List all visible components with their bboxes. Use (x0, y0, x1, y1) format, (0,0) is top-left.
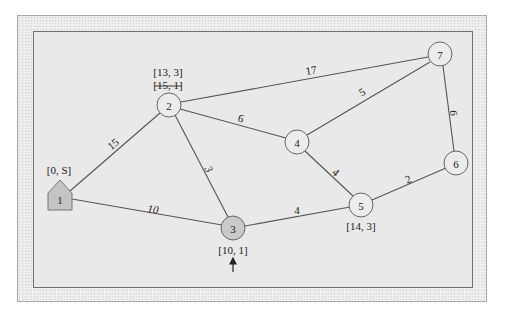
node-3: 3 (221, 216, 245, 240)
node-4-label: 4 (294, 137, 300, 149)
weight-5-6: 2 (403, 172, 413, 185)
weight-2-4: 6 (237, 111, 246, 124)
node-2-old-label: [15, 1] (153, 79, 182, 91)
node-3-label: 3 (230, 223, 236, 235)
node-5: 5 (349, 193, 373, 217)
node-2: 2 (157, 93, 181, 117)
node-1-label-source: [0, S] (47, 164, 71, 176)
node-3-distance-label: [10, 1] (218, 244, 247, 256)
node-5-label: 5 (358, 200, 364, 212)
node-2-label: 2 (166, 100, 172, 112)
node-6: 6 (444, 151, 468, 175)
node-6-label: 6 (453, 158, 459, 170)
node-5-distance-label: [14, 3] (346, 220, 375, 232)
edge-1-2 (70, 113, 160, 191)
edge-2-7 (181, 57, 428, 102)
graph-diagram: 15 10 3 6 17 4 4 5 2 6 1 2 3 (0, 0, 512, 314)
weight-6-7: 6 (448, 110, 460, 116)
figure-canvas: 15 10 3 6 17 4 4 5 2 6 1 2 3 (0, 0, 512, 314)
node-7: 7 (428, 42, 452, 66)
edges (70, 57, 454, 226)
edge-2-3 (175, 115, 228, 217)
up-arrow-icon (230, 258, 236, 272)
node-distance-labels: [13, 3] [15, 1] [0, S] [10, 1] [14, 3] (47, 66, 376, 256)
weight-2-7: 17 (305, 63, 318, 77)
node-4: 4 (285, 130, 309, 154)
weight-3-5: 4 (294, 204, 300, 216)
edge-4-7 (307, 62, 430, 135)
weight-2-3: 3 (202, 163, 216, 175)
node-1: 1 (48, 180, 72, 210)
edge-6-7 (443, 66, 454, 151)
edge-2-4 (180, 109, 286, 138)
edge-4-5 (305, 151, 353, 196)
weight-1-2: 15 (105, 136, 122, 153)
node-2-current-label: [13, 3] (153, 66, 182, 78)
node-1-label: 1 (57, 194, 63, 206)
node-7-label: 7 (437, 49, 443, 61)
weight-4-7: 5 (357, 85, 368, 98)
weight-1-3: 10 (147, 202, 160, 215)
